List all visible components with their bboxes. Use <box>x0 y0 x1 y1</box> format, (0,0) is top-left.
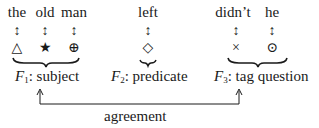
function-var: F <box>15 68 24 84</box>
brace-predicate <box>140 60 156 66</box>
function-label-predicate: F2: predicate <box>111 69 188 88</box>
function-var: F <box>214 68 223 84</box>
function-name: : tag question <box>228 68 309 84</box>
brace-subject <box>13 58 79 67</box>
function-name: : subject <box>29 68 79 84</box>
function-label-tag-question: F3: tag question <box>214 69 309 88</box>
function-name: : predicate <box>125 68 188 84</box>
agreement-label: agreement <box>104 109 166 124</box>
brace-tag-question <box>228 58 287 67</box>
agreement-connector <box>40 91 239 104</box>
function-var: F <box>111 68 120 84</box>
function-label-subject: F1: subject <box>15 69 79 88</box>
